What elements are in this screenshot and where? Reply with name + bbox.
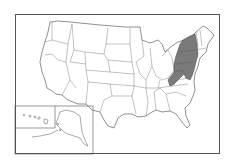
hawaii-inset: [23, 114, 48, 124]
us-map: [0, 0, 235, 165]
